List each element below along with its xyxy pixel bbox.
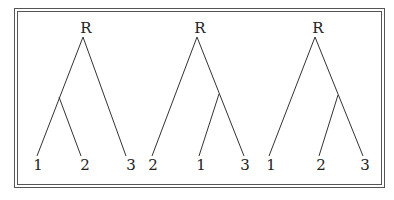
- tree-3-leaf-label-a: 1: [266, 156, 276, 174]
- tree-2-leaf-label-b: 1: [196, 156, 206, 174]
- tree-1-root-label: R: [80, 19, 92, 37]
- tree-2-edge-root-to-leaf2: [152, 37, 197, 156]
- tree-3-edge-inner-to-leaf2: [319, 95, 338, 156]
- tree-2-leaf-label-c: 3: [240, 156, 250, 174]
- tree-1-edge-root-to-leaf1: [37, 37, 83, 156]
- tree-2-root-label: R: [194, 19, 206, 37]
- tree-3-edge-root-to-leaf1: [269, 37, 315, 156]
- tree-2-edge-inner-to-leaf1: [199, 94, 219, 156]
- tree-3-leaf-label-b: 2: [316, 156, 326, 174]
- tree-3-root-label: R: [312, 19, 324, 37]
- tree-1-leaf-label-c: 3: [126, 156, 136, 174]
- tree-1-leaf-label-a: 1: [33, 156, 43, 174]
- tree-2-edge-root-to-leaf3: [197, 37, 244, 156]
- tree-2-leaf-label-a: 2: [148, 156, 158, 174]
- tree-2: R 2 1 3: [148, 19, 250, 174]
- tree-1-leaf-label-b: 2: [80, 156, 90, 174]
- tree-1-edge-root-to-leaf3: [83, 37, 126, 156]
- tree-1: R 1 2 3: [33, 19, 136, 174]
- tree-3-leaf-label-c: 3: [360, 156, 370, 174]
- tree-3-edge-root-to-leaf3: [315, 37, 363, 156]
- tree-3: R 1 2 3: [266, 19, 370, 174]
- tree-1-edge-inner-to-leaf2: [59, 97, 81, 156]
- trees-canvas: R 1 2 3 R 2 1 3 R 1 2 3: [0, 0, 394, 200]
